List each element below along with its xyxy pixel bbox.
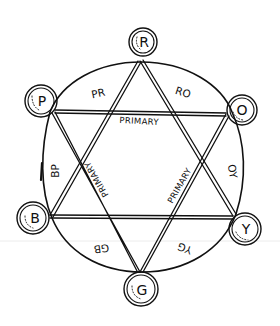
node-b: B [17,202,49,234]
arc-label-gb: GB [93,242,110,256]
node-y: Y [229,213,261,245]
arc-label-yg: YG [176,241,195,258]
node-r: R [129,28,157,56]
arc-label-bp: BP [49,164,61,178]
circle-stroke-mark [41,163,42,180]
node-label-o: O [236,102,247,118]
node-label-p: P [38,93,46,109]
arc-label-pr: PR [90,86,106,101]
node-label-y: Y [241,221,251,237]
color-wheel-diagram: R O Y G B P PR RO OY YG GB BP PRIMARY PR… [0,0,280,326]
arc-label-ro: RO [174,84,193,100]
triangle-pog [52,110,229,272]
triangle-ryb [50,60,236,219]
primary-label-top: PRIMARY [119,115,159,127]
node-g: G [124,272,158,306]
arc-label-oy: OY [226,163,240,180]
node-label-r: R [139,34,149,50]
node-label-b: B [30,210,40,226]
node-p: P [25,85,57,117]
node-label-g: G [137,282,148,298]
